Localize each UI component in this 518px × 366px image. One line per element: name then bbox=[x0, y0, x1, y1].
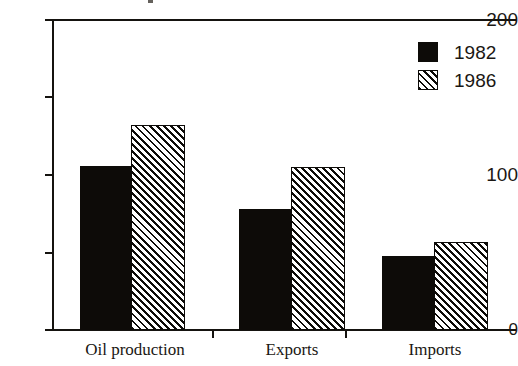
y-tick-150 bbox=[45, 96, 54, 98]
x-axis-label-oil-production: Oil production bbox=[70, 341, 200, 358]
bar-imports-1986 bbox=[434, 242, 488, 330]
y-axis-label-200: 200 bbox=[474, 10, 518, 29]
legend-label-1986: 1986 bbox=[454, 71, 496, 90]
legend-label-1982: 1982 bbox=[454, 43, 496, 62]
bar-oil-production-1982 bbox=[80, 166, 131, 330]
bar-exports-1982 bbox=[239, 209, 291, 330]
y-tick-200 bbox=[45, 19, 54, 21]
legend: 1982 1986 bbox=[418, 38, 496, 94]
x-axis-label-exports: Exports bbox=[232, 341, 352, 358]
bar-imports-1982 bbox=[382, 256, 434, 330]
bar-exports-1986 bbox=[291, 167, 345, 330]
legend-item-1986: 1986 bbox=[418, 66, 496, 94]
y-axis-label-100: 100 bbox=[474, 165, 518, 184]
y-tick-100 bbox=[45, 174, 54, 176]
bar-chart: 200 100 0 Oil production Exports Imports… bbox=[0, 0, 518, 366]
x-axis-label-imports: Imports bbox=[375, 341, 495, 358]
legend-swatch-solid-icon bbox=[418, 42, 438, 62]
bar-oil-production-1986 bbox=[131, 125, 185, 330]
y-tick-50 bbox=[45, 252, 54, 254]
legend-item-1982: 1982 bbox=[418, 38, 496, 66]
plot-top-rule bbox=[52, 19, 516, 21]
x-tick-2 bbox=[345, 329, 347, 338]
y-tick-0 bbox=[45, 329, 54, 331]
cropped-text-artifact bbox=[148, 0, 153, 3]
legend-swatch-hatched-icon bbox=[418, 70, 438, 90]
x-tick-1 bbox=[212, 329, 214, 338]
